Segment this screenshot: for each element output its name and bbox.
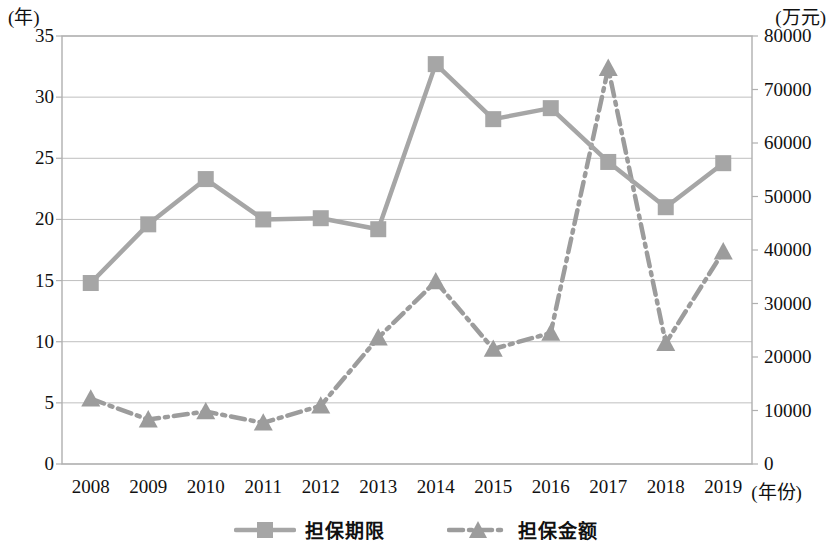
series-guarantee-amount-marker [541,323,560,340]
series-guarantee-amount-marker [369,328,388,345]
series-guarantee-amount-marker [81,389,100,406]
legend-item-label: 担保期限 [305,516,385,543]
series-guarantee-term-marker [485,111,501,127]
series-guarantee-term-marker [543,100,559,116]
legend-triangle-marker-icon [447,519,509,541]
series-guarantee-term-marker [428,56,444,72]
series-guarantee-term-marker [370,221,386,237]
guarantee-term-amount-chart: (年) (万元) 0510152025303501000020000300004… [0,0,832,550]
series-guarantee-term-marker [658,199,674,215]
series-guarantee-term-marker [313,210,329,226]
chart-legend: 担保期限担保金额 [0,516,832,543]
legend-square-marker-icon [234,519,296,541]
series-guarantee-amount-marker [599,59,618,76]
series-guarantee-term-marker [140,216,156,232]
legend-item-guarantee-amount[interactable]: 担保金额 [447,516,598,543]
series-guarantee-amount-line [91,68,724,423]
series-guarantee-term-marker [198,171,214,187]
series-guarantee-term-marker [255,211,271,227]
plot-area [0,0,832,550]
series-guarantee-term-marker [83,275,99,291]
series-guarantee-amount-marker [714,242,733,259]
series-guarantee-term-marker [600,154,616,170]
plot-frame [62,36,752,464]
legend-item-guarantee-term[interactable]: 担保期限 [234,516,385,543]
series-guarantee-term-marker [715,155,731,171]
legend-item-label: 担保金额 [518,516,598,543]
